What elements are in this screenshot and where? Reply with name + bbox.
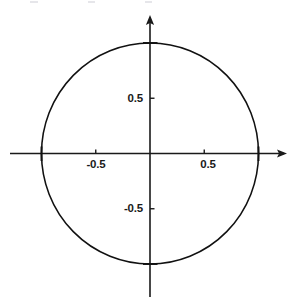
scan-artifact-speck [30,1,38,3]
plot-canvas [0,0,299,307]
scan-artifact-speck [145,1,152,3]
y-axis-tick-label-positive-half: 0.5 [103,93,143,105]
x-axis-tick-label-positive-half: 0.5 [184,159,232,171]
y-axis-tick-label-negative-half: -0.5 [103,203,143,215]
unit-circle-figure: 0.5 -0.5 -0.5 0.5 [0,0,299,307]
scan-artifact-speck [88,1,95,3]
x-axis-tick-label-negative-half: -0.5 [72,159,120,171]
